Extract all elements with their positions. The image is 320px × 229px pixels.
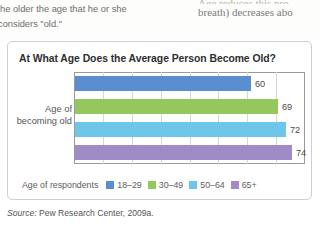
right-column-text: Age reduces this pro breath) decreases a… <box>198 0 320 29</box>
bar-row: 60 <box>75 76 251 91</box>
source-citation: Pew Research Center, 2009a. <box>39 208 154 218</box>
bar-value-label: 69 <box>282 102 292 112</box>
y-axis-label-line-1: Age of <box>16 104 72 116</box>
bar-series: 60697274 <box>74 72 305 164</box>
legend-swatch-icon <box>106 181 114 189</box>
bar-value-label: 74 <box>296 148 306 158</box>
left-column-text: he older the age that he or she consider… <box>0 2 190 32</box>
legend-item: 18–29 <box>106 180 141 190</box>
surrounding-page-text: he older the age that he or she consider… <box>0 0 320 40</box>
legend-item: 50–64 <box>189 180 224 190</box>
bar-value-label: 72 <box>290 125 300 135</box>
bar <box>75 99 278 114</box>
figure-container: At What Age Does the Average Person Beco… <box>7 41 312 200</box>
legend-label: 50–64 <box>200 180 224 190</box>
bar <box>75 145 292 160</box>
bar <box>75 122 286 137</box>
chart-title: At What Age Does the Average Person Beco… <box>19 53 276 64</box>
bar-row: 72 <box>75 122 286 137</box>
y-axis-label-line-2: becoming old <box>16 116 72 128</box>
left-column-line-2: considers "old." <box>0 17 190 32</box>
bar-row: 74 <box>75 145 292 160</box>
legend-title: Age of respondents <box>22 180 98 190</box>
source-prefix: Source: <box>7 208 39 218</box>
y-axis-label: Age of becoming old <box>16 104 72 127</box>
legend-swatch-icon <box>189 181 197 189</box>
chart-legend: Age of respondents 18–2930–4950–6465+ <box>22 180 257 190</box>
bar-row: 69 <box>75 99 278 114</box>
legend-label: 18–29 <box>117 180 141 190</box>
legend-item: 30–49 <box>148 180 183 190</box>
legend-label: 65+ <box>242 180 257 190</box>
legend-swatch-icon <box>148 181 156 189</box>
bar-value-label: 60 <box>255 79 265 89</box>
right-column-line-2: breath) decreases abo <box>198 6 293 18</box>
left-column-line-1: he older the age that he or she <box>0 2 190 17</box>
source-note: Source: Pew Research Center, 2009a. <box>7 208 154 218</box>
legend-item: 65+ <box>231 180 257 190</box>
legend-swatch-icon <box>231 181 239 189</box>
legend-label: 30–49 <box>159 180 183 190</box>
bar <box>75 76 251 91</box>
plot-area: 60697274 <box>74 72 305 164</box>
right-column-line-1: Age reduces this pro <box>198 0 320 4</box>
